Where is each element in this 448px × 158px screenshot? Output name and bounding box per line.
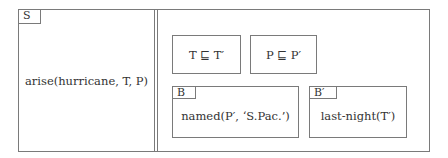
sub-box-b-prime-tag: B′ bbox=[309, 86, 337, 99]
divider-line-right bbox=[157, 9, 158, 151]
sub-box-b: B named(P′, ‘S.Pac.’) bbox=[172, 86, 299, 138]
sub-box-b-prime: B′ last-night(T′) bbox=[309, 86, 407, 138]
sub-box-b-content: named(P′, ‘S.Pac.’) bbox=[173, 109, 298, 123]
left-drs-box: S arise(hurricane, T, P) bbox=[18, 9, 155, 152]
condition-1-text: T ⊑ T′ bbox=[173, 48, 240, 62]
condition-box-2: P ⊑ P′ bbox=[250, 35, 317, 74]
left-box-tag: S bbox=[18, 9, 41, 24]
sub-box-b-prime-content: last-night(T′) bbox=[310, 109, 406, 123]
condition-2-text: P ⊑ P′ bbox=[251, 48, 316, 62]
sub-box-b-tag: B bbox=[172, 86, 196, 99]
condition-box-1: T ⊑ T′ bbox=[172, 35, 241, 74]
left-box-content: arise(hurricane, T, P) bbox=[18, 74, 155, 88]
